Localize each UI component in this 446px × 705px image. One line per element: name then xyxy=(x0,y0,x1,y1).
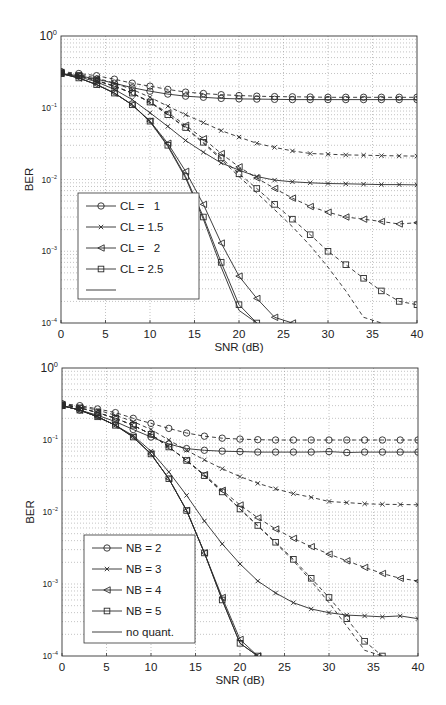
x-axis-label: SNR (dB) xyxy=(215,674,264,686)
y-axis-label: BER xyxy=(23,168,35,192)
y-tick-label: 10−3 xyxy=(43,578,59,589)
triangle-marker xyxy=(272,526,278,532)
x-tick-label: 15 xyxy=(188,328,201,340)
x-tick-label: 25 xyxy=(277,328,290,340)
legend: CL = 1CL = 1.5CL = 2CL = 2.5 xyxy=(78,193,199,299)
ber-figure: 0510152025303540SNR (dB)10010−110−210−31… xyxy=(0,0,446,705)
x-tick-label: 35 xyxy=(367,661,380,673)
triangle-marker xyxy=(307,203,313,209)
y-tick-label: 10−1 xyxy=(43,434,59,445)
legend-label: NB = 2 xyxy=(126,542,161,554)
x-marker xyxy=(130,97,134,101)
legend-label: CL = 2.5 xyxy=(120,263,163,275)
x-tick-label: 30 xyxy=(323,661,336,673)
x-marker xyxy=(256,579,260,583)
x-tick-label: 10 xyxy=(145,661,158,673)
x-marker xyxy=(220,466,224,470)
series-line xyxy=(62,406,418,453)
triangle-marker xyxy=(361,564,367,570)
x-marker xyxy=(202,458,206,462)
y-tick-label: 10−2 xyxy=(43,506,59,517)
x-tick-label: 15 xyxy=(189,661,202,673)
x-marker xyxy=(148,95,152,99)
bottom-chart: 0510152025303540SNR (dB)10010−110−210−31… xyxy=(24,360,424,686)
legend-label: CL = 1 xyxy=(120,200,160,212)
y-tick-label: 10−2 xyxy=(42,174,58,185)
x-marker xyxy=(184,493,188,497)
x-tick-label: 20 xyxy=(233,328,246,340)
legend-label: CL = 1.5 xyxy=(120,221,163,233)
x-marker xyxy=(166,124,170,128)
x-marker xyxy=(256,481,260,485)
legend-label: NB = 5 xyxy=(126,605,161,617)
x-tick-label: 5 xyxy=(102,328,108,340)
y-axis-label: BER xyxy=(24,500,36,524)
legend-label: NB = 4 xyxy=(126,584,162,596)
x-marker xyxy=(238,474,242,478)
y-tick-label: 100 xyxy=(40,28,58,43)
legend-label: CL = 2 xyxy=(120,242,160,254)
x-marker xyxy=(166,104,170,108)
circle-marker xyxy=(166,425,172,431)
legend-label: NB = 3 xyxy=(126,563,161,575)
x-marker xyxy=(183,138,187,142)
y-tick-label: 10−4 xyxy=(43,650,59,661)
y-tick-label: 10−1 xyxy=(42,102,58,113)
x-tick-label: 20 xyxy=(234,661,247,673)
top-chart: 0510152025303540SNR (dB)10010−110−210−31… xyxy=(23,28,423,353)
x-marker xyxy=(220,542,224,546)
x-tick-label: 35 xyxy=(366,328,379,340)
x-marker xyxy=(202,519,206,523)
x-tick-label: 5 xyxy=(103,661,109,673)
x-marker xyxy=(273,591,277,595)
x-marker xyxy=(201,120,205,124)
legend: NB = 2NB = 3NB = 4NB = 5no quant. xyxy=(84,535,195,643)
y-tick-label: 100 xyxy=(41,360,59,375)
x-marker xyxy=(201,150,205,154)
x-tick-label: 40 xyxy=(412,661,425,673)
x-marker xyxy=(167,470,171,474)
x-tick-label: 0 xyxy=(58,328,64,340)
x-marker xyxy=(219,161,223,165)
x-tick-label: 0 xyxy=(59,661,65,673)
x-tick-label: 40 xyxy=(411,328,424,340)
x-marker xyxy=(219,128,223,132)
x-marker xyxy=(291,600,295,604)
y-tick-label: 10−4 xyxy=(42,317,58,328)
x-tick-label: 30 xyxy=(322,328,335,340)
x-axis-label: SNR (dB) xyxy=(214,341,263,353)
figure: 0510152025303540SNR (dB)10010−110−210−31… xyxy=(0,0,446,705)
x-tick-label: 25 xyxy=(278,661,291,673)
y-tick-label: 10−3 xyxy=(42,245,58,256)
x-tick-label: 10 xyxy=(144,328,157,340)
legend-label: no quant. xyxy=(126,626,174,638)
